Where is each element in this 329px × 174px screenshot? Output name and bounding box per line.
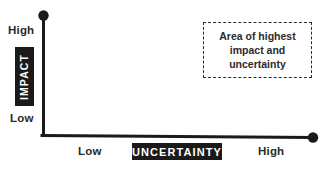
y-axis-low-label: Low	[10, 112, 34, 124]
highest-impact-uncertainty-callout: Area of highest impact and uncertainty	[203, 22, 312, 78]
x-axis-title-label: UNCERTAINTY	[132, 146, 222, 158]
y-axis-title-label: IMPACT	[19, 53, 31, 99]
callout-line-3: uncertainty	[229, 57, 286, 71]
x-axis-line	[42, 136, 313, 138]
x-axis-low-label: Low	[78, 145, 102, 157]
callout-line-2: impact and	[230, 43, 285, 57]
callout-line-1: Area of highest	[219, 29, 295, 43]
y-axis-endpoint-dot	[38, 10, 48, 20]
x-axis-endpoint-dot	[308, 132, 318, 142]
impact-uncertainty-matrix: High Low IMPACT Low UNCERTAINTY High Are…	[0, 0, 329, 174]
y-axis-title-chip: IMPACT	[15, 47, 34, 106]
x-axis-high-label: High	[258, 145, 284, 157]
x-axis-title-chip: UNCERTAINTY	[132, 143, 222, 160]
y-axis-high-label: High	[8, 24, 34, 36]
